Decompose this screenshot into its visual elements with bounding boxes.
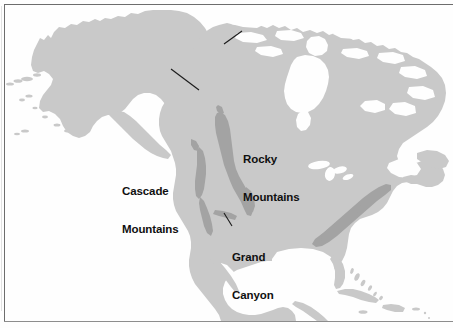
map-canvas — [5, 5, 453, 321]
map-label-cascade-line1: Cascade — [122, 185, 179, 198]
map-label-grand-line2: Canyon — [232, 289, 274, 302]
map-figure: Rocky Mountains Cascade Mountains Grand … — [0, 0, 453, 328]
frame-bottom-border — [4, 321, 453, 322]
map-label-grand-canyon: Grand Canyon — [232, 226, 274, 326]
map-label-grand-line1: Grand — [232, 251, 274, 264]
map-label-rocky-line1: Rocky — [243, 153, 300, 166]
map-label-cascade-mountains: Cascade Mountains — [122, 160, 179, 260]
map-label-rocky-line2: Mountains — [243, 191, 300, 204]
map-label-rocky-mountains: Rocky Mountains — [243, 128, 300, 228]
map-label-cascade-line2: Mountains — [122, 223, 179, 236]
frame-outer-edge — [1, 6, 2, 311]
